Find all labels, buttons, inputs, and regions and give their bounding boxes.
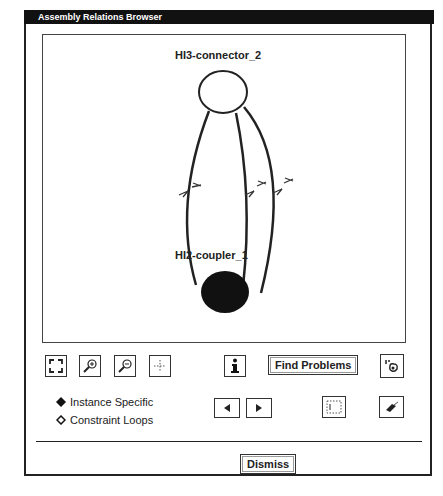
info-icon: [228, 358, 242, 374]
select-region-button[interactable]: [322, 396, 346, 418]
highlight-button[interactable]: [380, 354, 404, 378]
pan-button[interactable]: [149, 355, 171, 377]
eraser-icon: [384, 401, 400, 413]
diamond-filled-icon: [56, 397, 66, 407]
node-bottom: [201, 271, 249, 313]
find-problems-button[interactable]: Find Problems: [268, 355, 358, 375]
fit-view-button[interactable]: [45, 355, 67, 377]
select-region-icon: [326, 400, 342, 414]
footer-divider: [36, 441, 422, 442]
next-button[interactable]: [246, 398, 272, 418]
radio-instance-specific[interactable]: Instance Specific: [56, 396, 153, 408]
node-label-top[interactable]: HI3-connector_2: [175, 49, 261, 61]
info-button[interactable]: [224, 355, 246, 377]
zoom-out-button[interactable]: [114, 355, 136, 377]
zoom-in-icon: [83, 359, 97, 373]
node-label-bottom[interactable]: HI2-coupler_1: [175, 249, 248, 261]
node-top: [199, 71, 247, 113]
zoom-out-icon: [118, 359, 132, 373]
highlight-icon: [384, 358, 400, 374]
crosshair-icon: [153, 359, 167, 373]
window-title: Assembly Relations Browser: [24, 10, 434, 24]
fit-view-icon: [49, 359, 63, 373]
graph-canvas[interactable]: HI3-connector_2 HI2-coupler_1: [42, 34, 406, 343]
eraser-button[interactable]: [379, 396, 404, 418]
radio-constraint-loops[interactable]: Constraint Loops: [56, 414, 153, 426]
relations-graph: [43, 35, 407, 344]
prev-arrow-icon: [222, 403, 232, 413]
assembly-relations-browser-window: Assembly Relations Browser HI3-connector…: [24, 10, 432, 476]
next-arrow-icon: [254, 403, 264, 413]
diamond-hollow-icon: [56, 415, 66, 425]
edge-3: [244, 107, 274, 293]
dismiss-button[interactable]: Dismiss: [240, 454, 296, 474]
prev-button[interactable]: [214, 398, 240, 418]
zoom-in-button[interactable]: [79, 355, 101, 377]
